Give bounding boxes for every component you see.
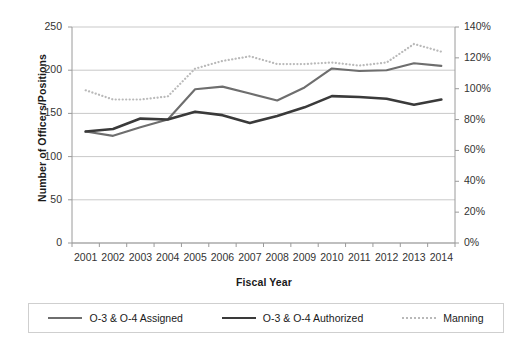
chart-legend: O-3 & O-4 AssignedO-3 & O-4 AuthorizedMa…	[28, 303, 504, 333]
series-lines	[86, 44, 442, 136]
legend-swatch-icon	[222, 317, 256, 319]
legend-swatch-icon	[402, 317, 436, 319]
series-line-2	[86, 44, 442, 100]
legend-item[interactable]: O-3 & O-4 Authorized	[222, 312, 363, 324]
chart-container: Number of Officers/Positions Fiscal Year…	[0, 0, 532, 355]
legend-swatch-icon	[48, 317, 82, 319]
plot-area	[0, 0, 532, 300]
legend-label: O-3 & O-4 Authorized	[263, 312, 363, 324]
legend-label: O-3 & O-4 Assigned	[89, 312, 182, 324]
legend-item[interactable]: Manning	[402, 312, 483, 324]
legend-label: Manning	[443, 312, 483, 324]
legend-item[interactable]: O-3 & O-4 Assigned	[48, 312, 182, 324]
